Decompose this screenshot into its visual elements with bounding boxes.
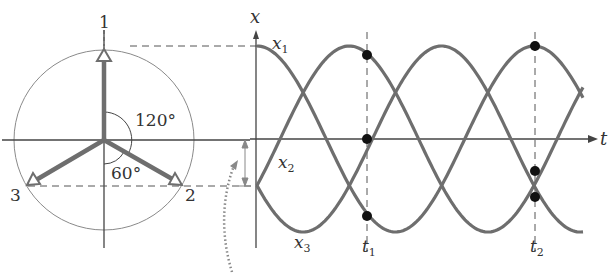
arrowhead-2-icon	[169, 173, 182, 185]
curve-label-x3: x3	[294, 232, 311, 255]
sample-dots	[362, 41, 540, 221]
curve-label-x2: x2	[278, 152, 295, 175]
dotted-rotation-arrow	[224, 163, 235, 272]
arrowhead-1-icon	[97, 49, 111, 61]
y-axis-arrow-icon	[253, 30, 259, 39]
t-axis-arrow-icon	[588, 135, 598, 143]
angle-label-60: 60°	[111, 163, 141, 183]
t-axis-label: t	[600, 128, 608, 149]
three-phase-diagram: 1 2 3 120° 60° x t x1 x2 x3 t1 t2	[0, 0, 610, 279]
phasor-label-3: 3	[10, 185, 21, 205]
curve-label-x1: x1	[272, 33, 289, 56]
time-label-t1: t1	[362, 236, 376, 259]
amplitude-marker	[239, 140, 251, 186]
phasor-label-2: 2	[185, 185, 196, 205]
dotted-arrowhead-icon	[230, 160, 238, 170]
y-axis-label: x	[250, 6, 260, 27]
angle-label-120: 120°	[135, 110, 176, 130]
time-label-t2: t2	[530, 236, 544, 259]
phasor-label-1: 1	[99, 12, 110, 32]
